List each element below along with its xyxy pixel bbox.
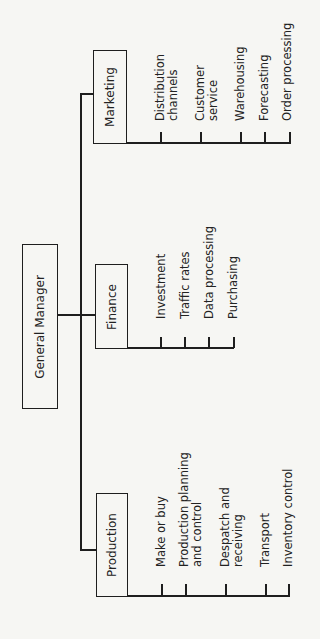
connector-marketing xyxy=(80,93,94,95)
tick xyxy=(185,584,187,596)
function-label: Distributionchannels xyxy=(154,54,180,121)
tick xyxy=(160,337,162,348)
function-label: Inventory control xyxy=(282,469,295,567)
function-label: Purchasing xyxy=(227,256,240,319)
function-label: Production planningand control xyxy=(178,452,204,567)
function-label: Data processing xyxy=(203,226,216,319)
finance-box: Finance xyxy=(95,264,128,349)
marketing-label: Marketing xyxy=(103,67,117,127)
general-manager-label: General Manager xyxy=(33,275,47,379)
tick xyxy=(233,337,235,348)
trunk-line xyxy=(80,93,82,550)
tick xyxy=(208,337,210,348)
function-label: Customerservice xyxy=(194,65,220,121)
production-box: Production xyxy=(96,493,128,597)
general-manager-box: General Manager xyxy=(22,244,58,409)
production-label: Production xyxy=(105,513,119,577)
tick xyxy=(160,132,162,143)
function-label: Transport xyxy=(259,513,272,567)
tick xyxy=(161,584,163,596)
marketing-box: Marketing xyxy=(93,50,127,144)
tick xyxy=(289,132,291,143)
tick xyxy=(200,132,202,143)
tick xyxy=(265,584,267,596)
tick xyxy=(225,584,227,596)
connector-production xyxy=(80,549,96,551)
function-label: Investment xyxy=(155,254,168,319)
finance-label: Finance xyxy=(105,284,119,330)
function-label: Order processing xyxy=(281,23,294,121)
function-label: Warehousing xyxy=(234,46,247,121)
tick xyxy=(288,584,290,596)
marketing-function-bar xyxy=(127,142,291,144)
function-label: Forecasting xyxy=(258,55,271,121)
function-label: Traffic rates xyxy=(179,251,192,319)
finance-function-bar xyxy=(128,347,234,349)
tick xyxy=(184,337,186,348)
function-label: Make or buy xyxy=(155,496,168,567)
tick xyxy=(240,132,242,143)
tick xyxy=(264,132,266,143)
function-label: Despatch andreceiving xyxy=(219,487,245,567)
connector-gm-finance xyxy=(57,314,96,316)
